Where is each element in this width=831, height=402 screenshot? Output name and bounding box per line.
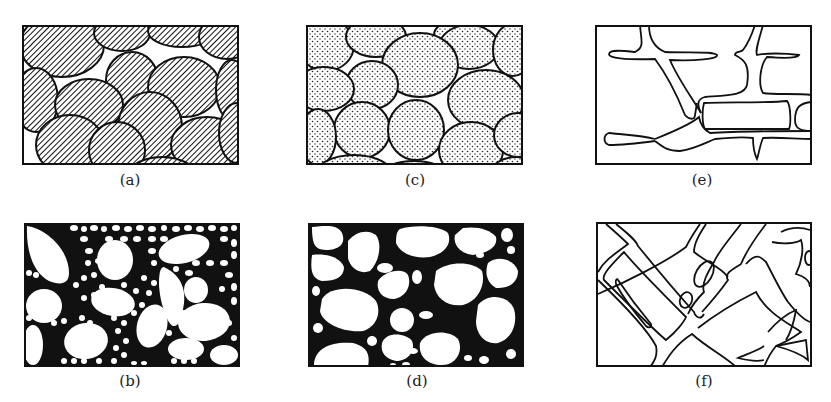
panel-f-label: (f) [674, 372, 734, 390]
panel-d [308, 223, 524, 367]
panel-b [24, 223, 240, 367]
panel-a-label: (a) [100, 171, 160, 189]
panel-d-label: (d) [387, 372, 447, 390]
crossing-channels-diagram [596, 222, 812, 367]
panel-a [22, 25, 239, 165]
branching-channels-diagram [595, 25, 812, 165]
panel-f [596, 222, 812, 367]
dotted-grains-diagram [306, 25, 523, 165]
panel-e-label: (e) [672, 171, 732, 189]
bimodal-grains-diagram [24, 223, 240, 367]
panel-c [306, 25, 523, 165]
grains-in-matrix-diagram [308, 223, 524, 367]
hatched-grains-diagram [22, 25, 239, 165]
panel-e [595, 25, 812, 165]
panel-b-label: (b) [100, 372, 160, 390]
panel-c-label: (c) [385, 171, 445, 189]
